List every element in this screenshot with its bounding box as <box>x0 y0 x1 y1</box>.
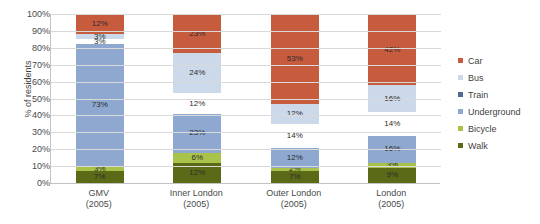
bar-segment-car[interactable]: 53% <box>271 14 319 104</box>
y-tick-60: 60% <box>32 77 50 87</box>
x-tick-year: (2005) <box>148 199 246 210</box>
bar-segment-label: 9% <box>386 171 398 179</box>
legend-item-walk[interactable]: Walk <box>458 137 538 154</box>
gridline-80 <box>51 48 441 49</box>
bar-segment-car[interactable]: 42% <box>368 14 416 85</box>
legend-item-bus[interactable]: Bus <box>458 69 538 86</box>
bar-segment-underground[interactable]: 73% <box>76 44 124 166</box>
gridline-70 <box>51 65 441 66</box>
bar-segment-label: 12% <box>287 154 303 162</box>
bar-segment-label: 12% <box>189 100 205 108</box>
gridline-20 <box>51 149 441 150</box>
y-tick-70: 70% <box>32 60 50 70</box>
x-tick-name: Inner London <box>170 188 223 198</box>
x-axis-tick-labels: GMV(2005)Inner London(2005)Outer London(… <box>50 188 440 222</box>
bar-segment-bus[interactable]: 24% <box>173 53 221 94</box>
x-tick-name: Outer London <box>266 188 321 198</box>
legend-label: Bus <box>468 73 484 83</box>
bar-segment-walk[interactable]: 9% <box>368 168 416 183</box>
legend-swatch-icon <box>458 126 463 131</box>
legend-item-train[interactable]: Train <box>458 86 538 103</box>
legend-label: Bicycle <box>468 124 497 134</box>
legend-label: Walk <box>468 141 488 151</box>
plot-area: 7%3%73%3%3%12%12%6%23%12%24%23%7%2%12%14… <box>50 14 440 184</box>
gridline-100 <box>51 14 441 15</box>
x-tick-year: (2005) <box>245 199 343 210</box>
bar-segment-label: 73% <box>92 101 108 109</box>
bar-segment-label: 24% <box>189 69 205 77</box>
x-tick-london: London(2005) <box>343 188 441 222</box>
legend-swatch-icon <box>458 109 463 114</box>
legend-item-underground[interactable]: Underground <box>458 103 538 120</box>
bar-segment-bus[interactable]: 12% <box>271 104 319 124</box>
stacked-bar-chart: % of residents 0%10%20%30%40%50%60%70%80… <box>0 0 540 224</box>
gridline-60 <box>51 82 441 83</box>
x-tick-name: London <box>376 188 406 198</box>
legend-swatch-icon <box>458 92 463 97</box>
bar-segment-label: 14% <box>384 120 400 128</box>
legend-label: Train <box>468 90 488 100</box>
legend-swatch-icon <box>458 58 463 63</box>
gridline-10 <box>51 166 441 167</box>
bar-segment-label: 12% <box>287 110 303 118</box>
bar-segment-label: 12% <box>92 20 108 28</box>
bar-segment-train[interactable]: 14% <box>271 124 319 148</box>
y-tick-50: 50% <box>32 94 50 104</box>
legend-swatch-icon <box>458 75 463 80</box>
legend-item-car[interactable]: Car <box>458 52 538 69</box>
x-tick-year: (2005) <box>343 199 441 210</box>
legend-label: Underground <box>468 107 521 117</box>
y-tick-100: 100% <box>27 9 50 19</box>
x-tick-year: (2005) <box>50 199 148 210</box>
x-tick-name: GMV <box>88 188 109 198</box>
bar-segment-label: 12% <box>189 169 205 177</box>
y-tick-40: 40% <box>32 110 50 120</box>
bar-segment-bicycle[interactable]: 6% <box>173 153 221 163</box>
bar-segment-underground[interactable]: 12% <box>271 148 319 168</box>
x-tick-gmv: GMV(2005) <box>50 188 148 222</box>
legend-label: Car <box>468 56 483 66</box>
bar-segment-label: 53% <box>287 55 303 63</box>
bar-segment-bus[interactable]: 3% <box>76 34 124 39</box>
y-axis-tick-labels: 0%10%20%30%40%50%60%70%80%90%100% <box>14 14 50 184</box>
y-tick-30: 30% <box>32 127 50 137</box>
gridline-90 <box>51 31 441 32</box>
y-tick-90: 90% <box>32 26 50 36</box>
bar-segment-train[interactable]: 12% <box>173 93 221 113</box>
gridline-40 <box>51 115 441 116</box>
x-tick-inner-london: Inner London(2005) <box>148 188 246 222</box>
legend-item-bicycle[interactable]: Bicycle <box>458 120 538 137</box>
bar-segment-label: 6% <box>191 154 203 162</box>
y-tick-20: 20% <box>32 144 50 154</box>
chart-legend: CarBusTrainUndergroundBicycleWalk <box>458 52 538 154</box>
y-tick-80: 80% <box>32 43 50 53</box>
y-tick-0: 0% <box>37 178 50 188</box>
y-tick-10: 10% <box>32 161 50 171</box>
bar-segment-bicycle[interactable]: 2% <box>271 168 319 171</box>
x-tick-outer-london: Outer London(2005) <box>245 188 343 222</box>
bar-segment-label: 7% <box>94 173 106 181</box>
bar-segment-walk[interactable]: 7% <box>76 171 124 183</box>
gridline-50 <box>51 99 441 100</box>
bar-segment-label: 42% <box>384 46 400 54</box>
gridline-30 <box>51 132 441 133</box>
legend-swatch-icon <box>458 143 463 148</box>
bar-segment-label: 7% <box>289 173 301 181</box>
